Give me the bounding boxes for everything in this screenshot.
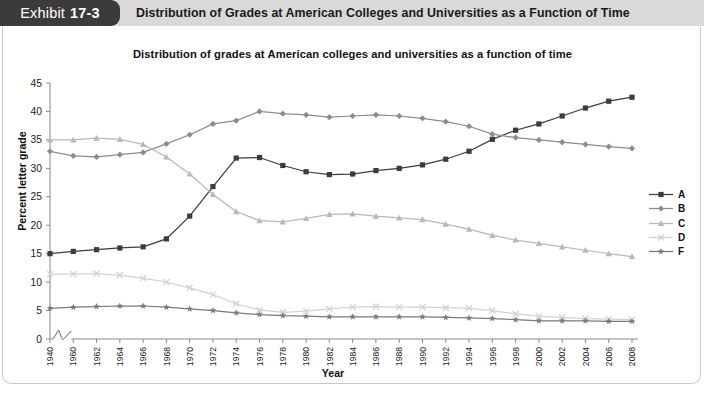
y-tick-label: 10	[31, 277, 43, 288]
series-B	[47, 108, 635, 160]
exhibit-number: 17-3	[70, 5, 100, 21]
x-tick-label: 2006	[604, 347, 614, 366]
legend-item-A[interactable]: A	[648, 190, 696, 199]
legend-item-D[interactable]: D	[648, 233, 696, 242]
y-tick-label: 30	[31, 163, 43, 174]
x-tick-label: 1960	[68, 347, 78, 366]
x-tick-label: 1982	[325, 347, 335, 366]
y-tick-label: 25	[31, 191, 43, 202]
x-tick-label: 2004	[581, 347, 591, 366]
x-tick-label: 1976	[255, 347, 265, 366]
y-tick-label: 0	[36, 334, 42, 345]
x-tick-label: 1940	[45, 347, 55, 366]
chart-legend: ABCDF	[648, 190, 696, 256]
x-tick-label: 1998	[511, 347, 521, 366]
x-tick-label: 1996	[488, 347, 498, 366]
figure-frame: Distribution of grades at American colle…	[2, 27, 701, 384]
x-tick-label: 1962	[92, 347, 102, 366]
x-tick-label: 1970	[185, 347, 195, 366]
exhibit-badge: Exhibit 17-3	[0, 0, 120, 26]
legend-item-B[interactable]: B	[648, 204, 696, 213]
x-tick-label: 1978	[278, 347, 288, 366]
x-tick-label: 1968	[162, 347, 172, 366]
y-axis-title: Percent letter grade	[16, 126, 28, 236]
x-tick-label: 1994	[464, 347, 474, 366]
series-F	[47, 303, 636, 325]
legend-swatch-diamond-icon	[648, 204, 674, 213]
legend-swatch-star-icon	[648, 247, 674, 256]
x-axis-title: Year	[3, 367, 663, 379]
x-tick-label: 2008	[627, 347, 637, 366]
x-tick-label: 1974	[231, 347, 241, 366]
legend-item-F[interactable]: F	[648, 247, 696, 256]
x-tick-label: 1992	[441, 347, 451, 366]
legend-label-D: D	[678, 233, 685, 242]
y-tick-label: 15	[31, 248, 43, 259]
legend-swatch-square-icon	[648, 190, 674, 199]
legend-swatch-triangle-icon	[648, 219, 674, 228]
y-tick-label: 35	[31, 134, 43, 145]
y-tick-label: 45	[31, 78, 43, 89]
y-tick-label: 20	[31, 220, 43, 231]
legend-label-B: B	[678, 204, 685, 213]
legend-swatch-cross-icon	[648, 233, 674, 242]
chart-svg: 0510152025303540451940196019621964196619…	[3, 27, 702, 384]
x-tick-label: 1972	[208, 347, 218, 366]
x-tick-label: 1966	[138, 347, 148, 366]
x-tick-label: 2002	[557, 347, 567, 366]
exhibit-header: Exhibit 17-3 Distribution of Grades at A…	[0, 0, 704, 26]
x-tick-label: 1990	[418, 347, 428, 366]
x-tick-label: 1964	[115, 347, 125, 366]
legend-label-A: A	[678, 190, 685, 199]
x-tick-label: 1984	[348, 347, 358, 366]
exhibit-label: Exhibit	[20, 5, 65, 21]
x-tick-label: 2000	[534, 347, 544, 366]
x-tick-label: 1986	[371, 347, 381, 366]
series-D	[47, 271, 635, 323]
y-tick-label: 40	[31, 106, 43, 117]
chart-plot-area: 0510152025303540451940196019621964196619…	[3, 27, 702, 384]
exhibit-title: Distribution of Grades at American Colle…	[136, 6, 630, 20]
x-tick-label: 1980	[301, 347, 311, 366]
y-tick-label: 5	[36, 305, 42, 316]
legend-label-C: C	[678, 219, 685, 228]
legend-label-F: F	[678, 247, 684, 256]
series-A	[47, 95, 634, 257]
x-tick-label: 1988	[394, 347, 404, 366]
legend-item-C[interactable]: C	[648, 219, 696, 228]
